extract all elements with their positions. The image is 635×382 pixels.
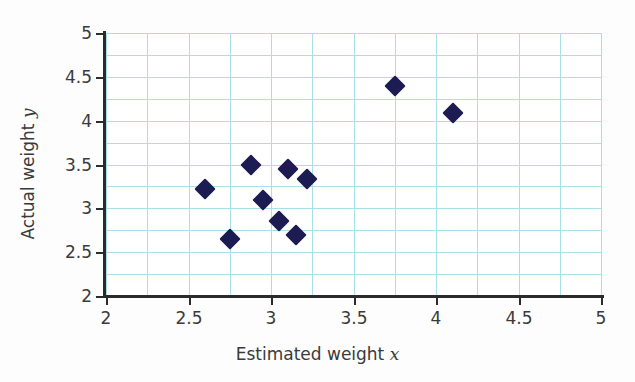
- y-tick-label: 2.5: [65, 244, 92, 261]
- gridline-horizontal: [106, 274, 601, 275]
- x-tick: [601, 296, 603, 305]
- y-tick: [96, 33, 104, 35]
- gridline-horizontal: [106, 55, 601, 56]
- gridline-vertical: [601, 33, 602, 296]
- x-tick-label: 3: [266, 310, 277, 327]
- gridline-horizontal: [106, 77, 601, 78]
- gridline-horizontal: [106, 208, 601, 209]
- gridline-horizontal: [106, 230, 601, 231]
- gridline-horizontal: [106, 99, 601, 100]
- x-tick: [189, 296, 191, 305]
- data-point: [384, 76, 405, 97]
- x-tick: [354, 296, 356, 305]
- x-tick-label: 3.5: [340, 310, 367, 327]
- x-tick-label: 2.5: [175, 310, 202, 327]
- y-tick: [96, 208, 104, 210]
- y-tick: [96, 296, 104, 298]
- y-axis-title: Actual weight y: [18, 54, 38, 294]
- x-axis-title: Estimated weight x: [0, 344, 635, 364]
- y-tick-label: 3: [81, 200, 92, 217]
- gridline-horizontal: [106, 121, 601, 122]
- x-tick-label: 2: [101, 310, 112, 327]
- scatter-chart: 22.533.544.55 22.533.544.55 Estimated we…: [0, 0, 635, 382]
- gridline-horizontal: [106, 143, 601, 144]
- x-tick-label: 4: [431, 310, 442, 327]
- data-point: [219, 228, 240, 249]
- y-tick: [96, 121, 104, 123]
- data-point: [285, 224, 306, 245]
- data-point: [194, 178, 215, 199]
- gridline-horizontal: [106, 252, 601, 253]
- x-tick-label: 5: [596, 310, 607, 327]
- x-tick: [519, 296, 521, 305]
- y-tick: [96, 77, 104, 79]
- y-axis-variable: y: [18, 109, 38, 119]
- gridline-horizontal: [106, 165, 601, 166]
- data-point: [241, 154, 262, 175]
- gridline-horizontal: [106, 186, 601, 187]
- y-tick-label: 3.5: [65, 157, 92, 174]
- x-tick: [106, 296, 108, 305]
- x-axis-title-text: Estimated weight: [236, 344, 390, 364]
- data-point: [277, 158, 298, 179]
- x-tick-label: 4.5: [505, 310, 532, 327]
- x-axis-variable: x: [390, 344, 400, 364]
- x-tick: [271, 296, 273, 305]
- plot-area: [106, 33, 601, 296]
- y-tick-label: 4.5: [65, 69, 92, 86]
- y-tick-label: 4: [81, 113, 92, 130]
- y-tick-label: 2: [81, 288, 92, 305]
- y-tick: [96, 252, 104, 254]
- y-axis-title-text: Actual weight: [18, 118, 38, 239]
- x-tick: [436, 296, 438, 305]
- y-tick-label: 5: [81, 25, 92, 42]
- y-tick-labels: 22.533.544.55: [52, 0, 92, 382]
- y-tick: [96, 165, 104, 167]
- gridline-horizontal: [106, 33, 601, 34]
